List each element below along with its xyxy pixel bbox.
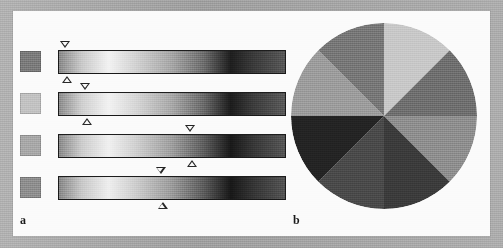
marker-down-triangle-icon-4[interactable] <box>156 167 166 174</box>
reference-swatch-1 <box>20 51 41 72</box>
reference-swatch-4 <box>20 177 41 198</box>
panel-label-a: a <box>20 214 26 226</box>
gradient-bar-1[interactable] <box>58 50 286 74</box>
gradient-bar-3[interactable] <box>58 134 286 158</box>
figure-root: a b <box>0 0 503 248</box>
marker-down-triangle-icon-1[interactable] <box>60 41 70 48</box>
marker-up-triangle-icon-2[interactable] <box>82 118 92 125</box>
gradient-bar-4[interactable] <box>58 176 286 200</box>
reference-swatch-2 <box>20 93 41 114</box>
marker-up-triangle-icon-4[interactable] <box>158 202 168 209</box>
panel-label-b: b <box>293 214 300 226</box>
marker-down-triangle-icon-3[interactable] <box>185 125 195 132</box>
white-panel: a b <box>13 11 490 236</box>
marker-up-triangle-icon-3[interactable] <box>187 160 197 167</box>
eight-wedge-disc <box>291 23 477 209</box>
gradient-bar-2[interactable] <box>58 92 286 116</box>
marker-up-triangle-icon-1[interactable] <box>62 76 72 83</box>
marker-down-triangle-icon-2[interactable] <box>80 83 90 90</box>
reference-swatch-3 <box>20 135 41 156</box>
